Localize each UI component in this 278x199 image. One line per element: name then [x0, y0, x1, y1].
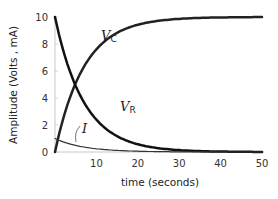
y-tick-label: 4 — [42, 93, 48, 104]
x-axis-label: time (seconds) — [121, 176, 199, 188]
i-label-leader-line — [76, 126, 81, 142]
i-curve — [55, 139, 262, 153]
y-tick-label: 0 — [42, 147, 48, 158]
y-tick-label: 10 — [35, 12, 48, 23]
x-tick-label: 10 — [90, 158, 103, 169]
y-tick-label: 8 — [42, 39, 48, 50]
y-tick-label: 2 — [42, 120, 48, 131]
x-tick-label: 40 — [214, 158, 227, 169]
vr-series-label: VR — [120, 99, 136, 115]
x-tick-label: 50 — [256, 158, 269, 169]
y-axis-label: Amplitude (Volts , mA) — [7, 26, 19, 144]
x-tick-label: 20 — [131, 158, 144, 169]
chart: 0246810 1020304050 time (seconds) Amplit… — [0, 0, 278, 199]
y-tick-labels: 0246810 — [35, 12, 58, 158]
vc-series-label: VC — [101, 28, 117, 44]
x-tick-labels: 1020304050 — [90, 158, 268, 169]
x-tick-label: 30 — [173, 158, 186, 169]
y-tick-label: 6 — [42, 66, 48, 77]
i-series-label: I — [81, 121, 88, 136]
